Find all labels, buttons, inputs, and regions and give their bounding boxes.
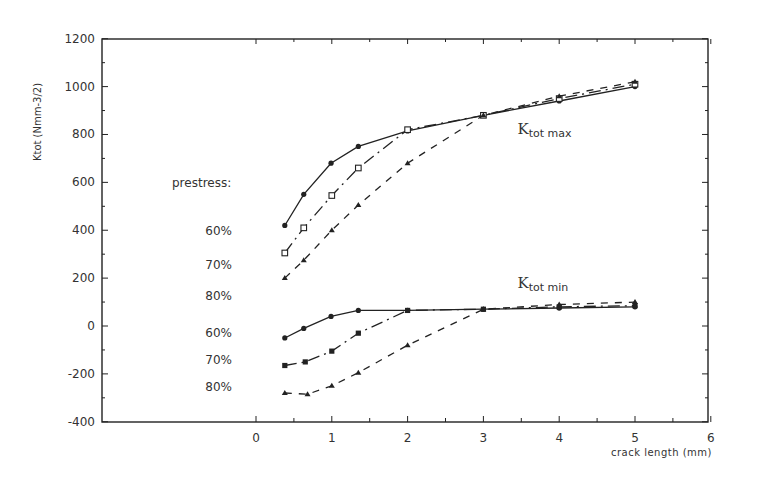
y-axis-title: Ktot (Nmm-3/2) bbox=[32, 83, 43, 161]
data-point bbox=[282, 363, 287, 368]
curve-annotation: Ktot max bbox=[518, 120, 573, 140]
curve-annotation: Ktot min bbox=[518, 274, 569, 294]
x-tick-label: 0 bbox=[252, 431, 260, 445]
data-point bbox=[405, 160, 411, 165]
x-tick-label: 1 bbox=[328, 431, 336, 445]
x-tick-label: 4 bbox=[555, 431, 563, 445]
data-point bbox=[282, 250, 288, 256]
x-tick-label: 2 bbox=[404, 431, 412, 445]
data-point bbox=[405, 127, 411, 133]
series-line bbox=[282, 299, 638, 396]
data-point bbox=[328, 161, 333, 166]
data-point bbox=[356, 308, 361, 313]
prestress-label: 60% bbox=[205, 326, 232, 340]
x-axis-title: crack length (mm) bbox=[611, 447, 712, 458]
data-point bbox=[355, 202, 361, 207]
prestress-label: 70% bbox=[205, 258, 232, 272]
y-tick-label: -200 bbox=[68, 367, 95, 381]
x-tick-label: 5 bbox=[631, 431, 639, 445]
data-point bbox=[282, 223, 287, 228]
data-point bbox=[303, 359, 308, 364]
prestress-label: 70% bbox=[205, 353, 232, 367]
legend-title: prestress: bbox=[172, 176, 231, 190]
x-tick-label: 6 bbox=[707, 431, 715, 445]
series-line bbox=[282, 304, 637, 340]
chart-canvas: -400-200020040060080010001200 0123456 Kt… bbox=[0, 0, 757, 486]
x-tick-label: 3 bbox=[480, 431, 488, 445]
data-point bbox=[329, 383, 335, 388]
data-point bbox=[301, 225, 307, 231]
y-tick-label: 400 bbox=[72, 223, 95, 237]
labels-layer: Ktot (Nmm-3/2) crack length (mm) prestre… bbox=[32, 83, 712, 458]
data-point bbox=[356, 144, 361, 149]
prestress-label: 80% bbox=[205, 289, 232, 303]
y-tick-label: 1200 bbox=[64, 32, 95, 46]
y-tick-label: 0 bbox=[87, 319, 95, 333]
data-point bbox=[405, 308, 410, 313]
y-tick-label: 800 bbox=[72, 127, 95, 141]
data-point bbox=[329, 349, 334, 354]
series-line bbox=[282, 81, 638, 255]
data-point bbox=[356, 331, 361, 336]
data-point bbox=[328, 314, 333, 319]
data-point bbox=[405, 342, 411, 347]
data-point bbox=[282, 335, 287, 340]
prestress-label: 60% bbox=[205, 224, 232, 238]
plot-frame bbox=[102, 39, 708, 422]
data-point bbox=[355, 370, 361, 375]
series-line bbox=[282, 84, 637, 228]
series-line bbox=[282, 303, 637, 368]
data-point bbox=[301, 326, 306, 331]
prestress-label: 80% bbox=[205, 380, 232, 394]
y-tick-label: 200 bbox=[72, 271, 95, 285]
data-point bbox=[301, 192, 306, 197]
data-point bbox=[356, 165, 362, 171]
y-tick-label: 600 bbox=[72, 175, 95, 189]
series-layer bbox=[282, 79, 638, 396]
y-tick-label: -400 bbox=[68, 415, 95, 429]
series-line bbox=[282, 79, 638, 280]
y-tick-label: 1000 bbox=[64, 80, 95, 94]
x-axis: 0123456 bbox=[252, 39, 714, 445]
data-point bbox=[329, 193, 335, 199]
